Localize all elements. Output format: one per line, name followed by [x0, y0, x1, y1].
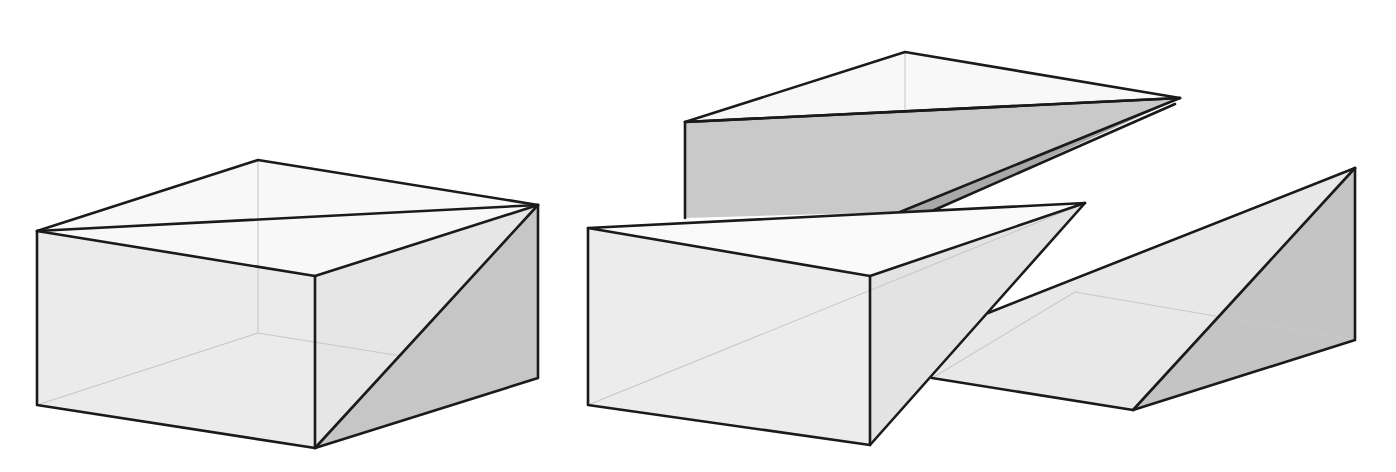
diagram-stage	[0, 0, 1396, 472]
box-dissection-diagram	[0, 0, 1396, 472]
assembled-box	[37, 160, 538, 448]
upper-wedge	[685, 52, 1180, 218]
